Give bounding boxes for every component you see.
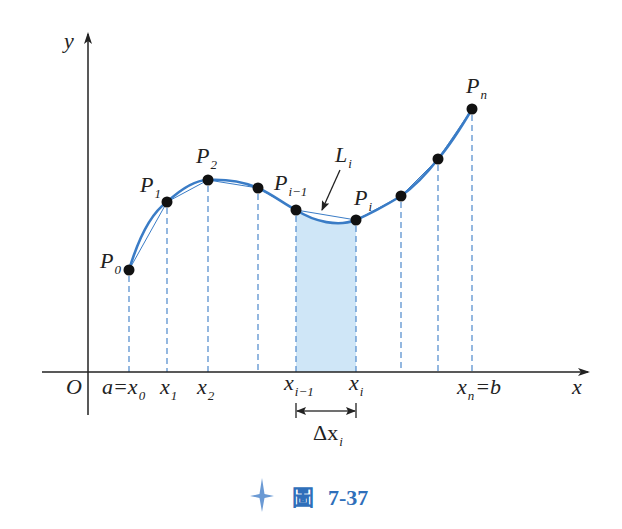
- arc-length-diagram: Li P0 P1 P2 Pi−1 Pi Pn y x O a=x0 x1 x2 …: [0, 0, 622, 529]
- tick-label-x1: x1: [159, 374, 177, 403]
- label-p1: P1: [139, 172, 161, 201]
- label-p0: P0: [99, 248, 121, 277]
- tick-label-xn: xn=b: [456, 374, 501, 403]
- label-pn: Pn: [465, 73, 487, 102]
- caption-label: 圖: [292, 485, 314, 510]
- li-pointer-arrow: [322, 170, 340, 210]
- point-p2: [203, 175, 214, 186]
- point-pi: [351, 215, 362, 226]
- point-p3: [253, 183, 264, 194]
- tick-label-xi-1: xi−1: [283, 370, 314, 399]
- y-axis-label: y: [62, 28, 74, 53]
- tick-label-x2: x2: [196, 374, 215, 403]
- label-p2: P2: [195, 143, 217, 172]
- shaded-strip: [296, 210, 356, 372]
- li-label: Li: [334, 142, 352, 171]
- x-axis-label: x: [571, 374, 582, 399]
- delta-x-label: Δxi: [313, 420, 343, 449]
- point-p6: [396, 191, 407, 202]
- label-pi: Pi: [353, 185, 372, 214]
- tick-label-x0: a=x0: [102, 374, 146, 403]
- figure-caption: 圖 7-37: [250, 478, 368, 512]
- caption-number: 7-37: [328, 485, 368, 510]
- point-p7: [433, 154, 444, 165]
- point-pi-1: [291, 205, 302, 216]
- label-pi-1: Pi−1: [273, 170, 307, 199]
- tick-label-xi: xi: [348, 370, 364, 399]
- point-p1: [162, 197, 173, 208]
- four-point-star-icon: [250, 478, 274, 512]
- origin-label: O: [66, 374, 82, 399]
- point-pn: [467, 104, 478, 115]
- point-p0: [124, 265, 135, 276]
